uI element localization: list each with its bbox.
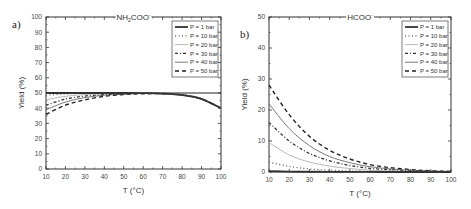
y-tick-label: 50 [258,13,266,20]
legend-label: P = 10 bar [420,33,448,39]
x-tick-label: 50 [120,173,128,180]
x-tick-label: 50 [346,176,354,183]
legend-label: P = 20 bar [190,42,218,48]
legend: P = 1 barP = 10 barP = 20 barP = 30 barP… [172,21,218,77]
y-tick-label: 30 [35,120,43,127]
series-group [269,85,451,172]
legend-label: P = 1 bar [190,24,214,30]
panel-a: a) 102030405060708090100T (°C)0102030405… [0,0,235,209]
y-tick-label: 70 [35,59,43,66]
x-tick-label: 100 [446,176,457,183]
series-line [269,143,451,172]
x-axis-label: T (°C) [123,186,145,195]
y-tick-label: 20 [258,106,266,113]
x-tick-label: 100 [216,173,227,180]
x-tick-label: 60 [140,173,148,180]
y-tick-label: 40 [35,105,43,112]
y-tick-label: 30 [258,75,266,82]
x-tick-label: 40 [326,176,334,183]
x-tick-label: 80 [407,176,415,183]
legend-label: P = 40 bar [190,59,218,65]
y-tick-label: 90 [35,29,43,36]
series-group [46,93,221,114]
y-axis-label: Yield (%) [17,77,26,109]
panel-label-b: b) [240,28,249,40]
series-line [269,122,451,171]
x-tick-label: 10 [42,173,50,180]
panel-b: b) 102030405060708090100T (°C)0102030405… [235,0,471,209]
series-line [269,171,451,172]
x-tick-label: 30 [306,176,314,183]
legend-label: P = 50 bar [190,68,218,74]
x-tick-label: 70 [387,176,395,183]
y-tick-label: 40 [258,44,266,51]
chart-title: NH2COO- [116,12,152,23]
chart-a: 102030405060708090100T (°C)0102030405060… [0,0,235,209]
x-tick-label: 30 [81,173,89,180]
x-tick-label: 20 [62,173,70,180]
legend-label: P = 30 bar [420,51,448,57]
y-axis-label: Yield (%) [240,78,249,110]
x-tick-label: 40 [101,173,109,180]
x-tick-label: 60 [366,176,374,183]
x-axis-label: T (°C) [349,189,371,198]
y-tick-label: 80 [35,44,43,51]
legend-label: P = 30 bar [190,51,218,57]
series-line [269,104,451,172]
x-tick-label: 90 [427,176,435,183]
x-tick-label: 10 [265,176,273,183]
series-line [46,93,221,108]
y-tick-label: 10 [258,137,266,144]
x-tick-label: 90 [198,173,206,180]
x-tick-label: 80 [178,173,186,180]
svg-text:HCOO-: HCOO- [347,12,373,22]
legend-label: P = 40 bar [420,59,448,65]
y-tick-label: 0 [38,165,42,172]
chart-b: 102030405060708090100T (°C)01020304050Yi… [235,0,471,209]
legend-label: P = 50 bar [420,68,448,74]
legend-label: P = 10 bar [190,33,218,39]
svg-text:NH2COO-: NH2COO- [116,12,151,23]
x-tick-label: 20 [286,176,294,183]
chart-title: HCOO- [346,12,374,22]
x-tick-label: 70 [159,173,167,180]
legend: P = 1 barP = 10 barP = 20 barP = 30 barP… [402,21,448,77]
y-tick-label: 100 [31,13,42,20]
y-tick-label: 20 [35,135,43,142]
panel-label-a: a) [12,18,21,30]
y-tick-label: 10 [35,150,43,157]
legend-label: P = 20 bar [420,42,448,48]
legend-label: P = 1 bar [420,24,444,30]
series-line [269,85,451,171]
y-tick-label: 50 [35,89,43,96]
y-tick-label: 0 [261,168,265,175]
y-tick-label: 60 [35,74,43,81]
